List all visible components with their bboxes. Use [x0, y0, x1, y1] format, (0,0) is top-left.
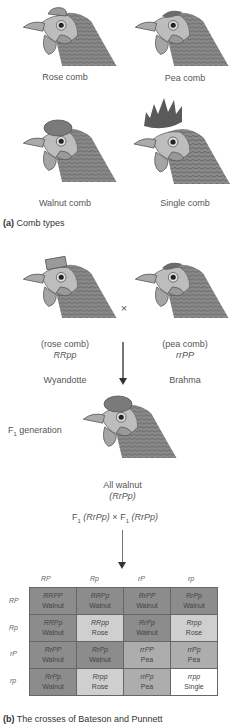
punnett-cell: RrPPWalnut [124, 588, 171, 615]
parent2-phenotype: (pea comb) [145, 339, 225, 349]
cell-phenotype: Walnut [183, 602, 205, 609]
cell-genotype: Rrpp [77, 672, 123, 682]
cell-genotype: RRPp [30, 618, 76, 628]
punnett-cell: RrPpWalnut [124, 615, 171, 642]
cell-genotype: RrPp [124, 618, 170, 628]
punnett-cell: RrppRose [77, 669, 124, 696]
punnett-cell: rrppSingle [171, 669, 218, 696]
punnett-row: RRPpWalnut RRppRose RrPpWalnut RrppRose [30, 615, 218, 642]
cell-genotype: RrPp [77, 645, 123, 655]
rose-comb-label: Rose comb [20, 72, 110, 82]
col-header: rP [138, 575, 145, 582]
cell-phenotype: Rose [92, 629, 108, 636]
panel-a-caption-letter: (a) [3, 218, 14, 228]
parent1-breed: Wyandotte [20, 375, 110, 385]
cell-phenotype: Rose [92, 683, 108, 690]
col-header: rp [188, 575, 194, 582]
panel-a-caption-text: Comb types [17, 218, 65, 228]
punnett-cell: rrPpPea [171, 642, 218, 669]
row-header: rP [10, 650, 17, 657]
row-header: Rp [9, 624, 18, 631]
punnett-cell: RRppRose [77, 615, 124, 642]
arrow-head-icon [119, 378, 127, 385]
cell-genotype: RrPp [30, 672, 76, 682]
panel-b-caption: (b) The crosses of Bateson and Punnett [3, 714, 162, 724]
f1-suffix: generation [17, 425, 62, 435]
cell-genotype: RrPp [171, 591, 217, 601]
cell-genotype: RRPp [77, 591, 123, 601]
cell-phenotype: Single [184, 683, 203, 690]
parent1-genotype: RRpp [20, 350, 110, 360]
punnett-cell: RrPPWalnut [30, 642, 77, 669]
punnett-row: RrPpWalnut RrppRose rrPpPea rrppSingle [30, 669, 218, 696]
panel-b-caption-text: The crosses of Bateson and Punnett [17, 714, 163, 724]
rose-comb-hen-illustration [18, 2, 118, 70]
cell-phenotype: Walnut [136, 629, 158, 636]
punnett-cell: RrPpWalnut [30, 669, 77, 696]
f1-cross-right-genotype: (RrPp) [132, 512, 159, 522]
punnett-cell: rrPpPea [124, 669, 171, 696]
cross-symbol: × [118, 302, 130, 314]
single-comb-label: Single comb [145, 198, 225, 208]
cross-arrow [122, 342, 124, 380]
cell-phenotype: Walnut [89, 656, 111, 663]
f1-generation-label: F1 generation [8, 425, 62, 437]
cell-phenotype: Walnut [42, 683, 64, 690]
punnett-cell: RRPpWalnut [30, 615, 77, 642]
cell-phenotype: Pea [188, 656, 200, 663]
punnett-square: RRPPWalnut RRPpWalnut RrPPWalnut RrPpWal… [29, 587, 218, 696]
punnett-row: RrPPWalnut RrPpWalnut rrPPPea rrPpPea [30, 642, 218, 669]
parent2-breed: Brahma [145, 375, 225, 385]
row-header: RP [9, 597, 19, 604]
col-header: Rp [90, 575, 99, 582]
walnut-comb-label: Walnut comb [20, 198, 110, 208]
arrow-head-icon [118, 562, 126, 569]
cell-phenotype: Walnut [89, 602, 111, 609]
cell-phenotype: Walnut [42, 656, 64, 663]
single-comb-hen-illustration [130, 96, 230, 188]
cell-phenotype: Walnut [42, 629, 64, 636]
punnett-cell: RrPpWalnut [171, 588, 218, 615]
brahma-hen-illustration [130, 254, 230, 322]
f1-cross-equation: F1 (RrPp) × F1 (RrPp) [40, 512, 190, 524]
punnett-row: RRPPWalnut RRPpWalnut RrPPWalnut RrPpWal… [30, 588, 218, 615]
cell-genotype: rrPp [171, 645, 217, 655]
wyandotte-hen-illustration [18, 254, 118, 322]
f1-cross-times: × [112, 512, 117, 522]
f1-walnut-hen-illustration [78, 394, 178, 462]
punnett-cell: rrPPPea [124, 642, 171, 669]
col-header: RP [41, 575, 51, 582]
cell-genotype: rrPP [124, 645, 170, 655]
f1-genotype: (RrPp) [80, 491, 165, 501]
cell-phenotype: Pea [141, 683, 153, 690]
parent2-genotype: rrPP [145, 350, 225, 360]
walnut-comb-hen-illustration [18, 118, 118, 186]
pea-comb-label: Pea comb [145, 73, 225, 83]
f1-cross-right-sub: 1 [126, 518, 129, 524]
parent1-phenotype: (rose comb) [20, 339, 110, 349]
cell-genotype: rrPp [124, 672, 170, 682]
row-header: rp [10, 677, 16, 684]
cell-genotype: RrPP [30, 645, 76, 655]
cell-genotype: rrpp [171, 672, 217, 682]
punnett-cell: RrppRose [171, 615, 218, 642]
cell-phenotype: Walnut [136, 602, 158, 609]
f1-result: All walnut [80, 480, 165, 490]
pea-comb-hen-illustration [130, 2, 230, 70]
cell-genotype: RRPP [30, 591, 76, 601]
cell-phenotype: Walnut [42, 602, 64, 609]
f1-cross-left-sub: 1 [77, 518, 80, 524]
cell-genotype: RrPP [124, 591, 170, 601]
cell-phenotype: Rose [186, 629, 202, 636]
cell-genotype: RRpp [77, 618, 123, 628]
punnett-cell: RRPPWalnut [30, 588, 77, 615]
cell-genotype: Rrpp [171, 618, 217, 628]
panel-b-caption-letter: (b) [3, 714, 15, 724]
f2-arrow [122, 530, 123, 564]
punnett-cell: RRPpWalnut [77, 588, 124, 615]
panel-a-caption: (a) Comb types [3, 218, 65, 228]
cell-phenotype: Pea [141, 656, 153, 663]
punnett-cell: RrPpWalnut [77, 642, 124, 669]
f1-cross-left-genotype: (RrPp) [83, 512, 110, 522]
